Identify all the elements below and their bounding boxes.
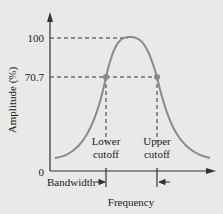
tick-100: 100 [28,32,45,44]
upper-cutoff-marker [154,74,160,80]
response-curve [55,37,210,158]
x-axis-label: Frequency [108,196,155,208]
y-axis-label: Amplitude (%) [6,67,19,134]
lower-cutoff-label-line1: Lower [92,135,121,147]
axes [50,18,210,187]
y-axis-arrow-icon [47,12,53,22]
lower-cutoff-label-line2: cutoff [93,148,119,160]
x-axis-arrow-icon [206,168,216,174]
bandwidth-label: Bandwidth [47,176,96,188]
bandpass-diagram: 100 70.7 0 Amplitude (%) Lower cutoff Up… [0,0,223,214]
upper-cutoff-label-line1: Upper [143,135,171,147]
upper-cutoff-label-line2: cutoff [144,148,170,160]
lower-cutoff-marker [103,74,109,80]
bandwidth-left-arrow-icon [159,180,165,185]
tick-0: 0 [39,166,45,178]
tick-70-7: 70.7 [25,71,45,83]
bandwidth-right-arrow-icon [99,180,105,185]
